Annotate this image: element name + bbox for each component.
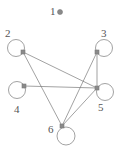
node-label-4: 4 xyxy=(14,104,20,115)
node-marker-3[interactable] xyxy=(95,50,99,54)
graph-edge xyxy=(62,52,97,126)
graph-edge xyxy=(24,86,97,88)
node-label-2: 2 xyxy=(5,28,11,39)
graph-edge xyxy=(23,52,97,88)
node-marker-layer xyxy=(21,10,99,129)
self-loop-layer xyxy=(8,40,114,146)
node-marker-1[interactable] xyxy=(58,10,63,15)
node-label-6: 6 xyxy=(48,124,54,135)
node-marker-6[interactable] xyxy=(60,124,64,128)
node-label-5: 5 xyxy=(98,102,104,113)
graph-canvas xyxy=(0,0,124,149)
graph-edge xyxy=(62,88,97,126)
node-marker-4[interactable] xyxy=(22,84,26,88)
graph-edge xyxy=(23,52,62,126)
node-marker-5[interactable] xyxy=(95,86,99,90)
node-marker-2[interactable] xyxy=(21,50,25,54)
node-label-1: 1 xyxy=(50,6,56,17)
graph-diagram: 123456 xyxy=(0,0,124,149)
edge-layer xyxy=(23,52,97,126)
self-loop-6 xyxy=(57,127,75,145)
node-label-3: 3 xyxy=(101,28,107,39)
